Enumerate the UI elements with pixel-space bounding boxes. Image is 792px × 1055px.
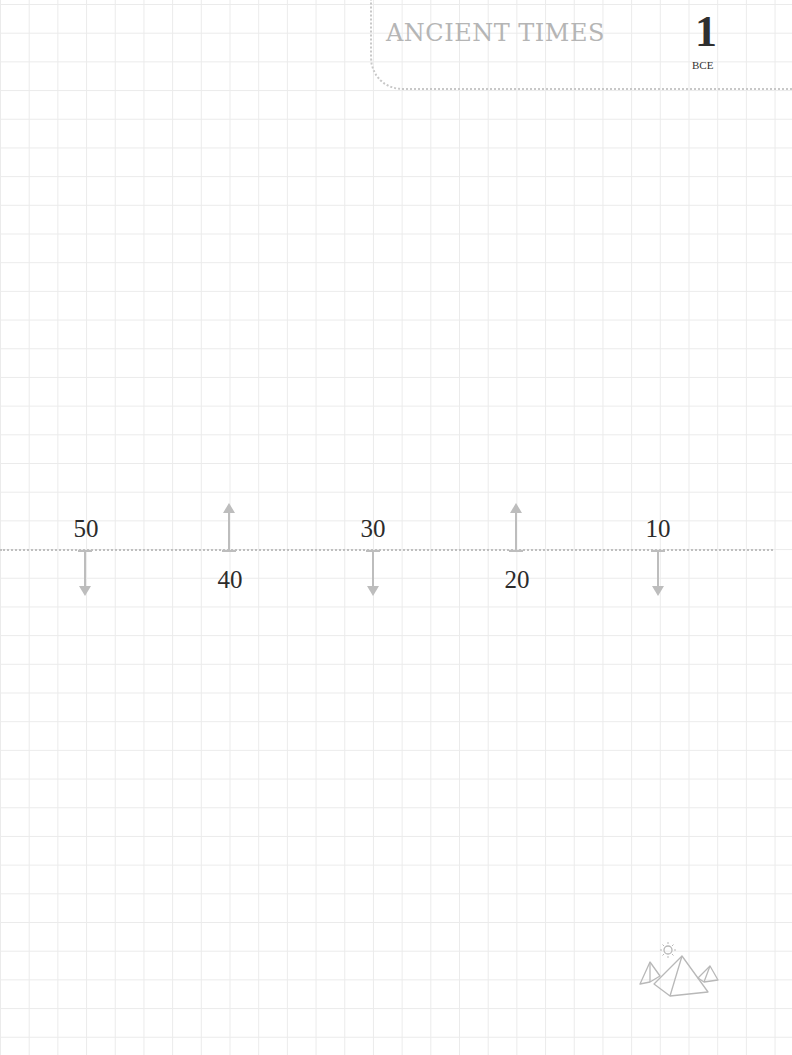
page-title: ANCIENT TIMES [386, 19, 605, 47]
timeline-label-50: 50 [74, 515, 99, 543]
era-label: BCE [692, 59, 713, 71]
timeline-label-30: 30 [361, 515, 386, 543]
timeline-label-40: 40 [218, 566, 243, 594]
timeline-label-20: 20 [505, 566, 530, 594]
timeline-label-10: 10 [646, 515, 671, 543]
page-number: 1 [695, 6, 717, 57]
pyramids-with-sun-icon [638, 940, 722, 1000]
